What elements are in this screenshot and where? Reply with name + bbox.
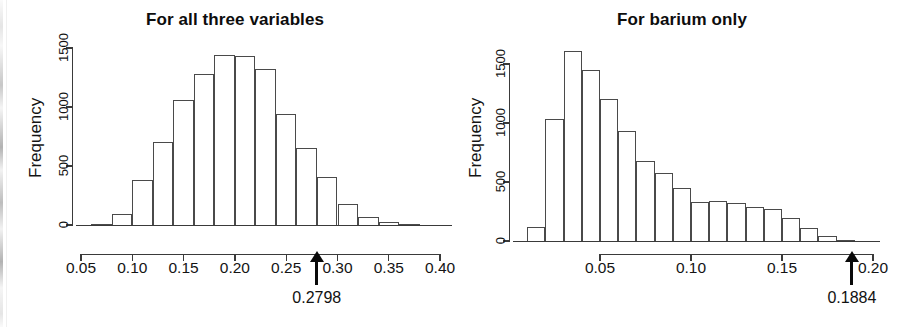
histogram-bar xyxy=(358,217,379,225)
histogram-bar xyxy=(600,99,618,241)
histogram-bar xyxy=(276,114,297,225)
histogram-bar xyxy=(618,131,636,241)
histogram-bar xyxy=(691,202,709,241)
y-tick-label-500: 500 xyxy=(493,160,508,204)
x-tick-label-0.15: 0.15 xyxy=(763,259,801,277)
x-axis-line-right xyxy=(600,254,873,255)
histogram-bar xyxy=(317,177,338,225)
y-tick-label-1000: 1000 xyxy=(56,85,71,129)
x-tick-label-0.25: 0.25 xyxy=(267,259,305,277)
figure-canvas: For all three variables Frequency 050010… xyxy=(0,0,898,327)
x-tick-label-0.30: 0.30 xyxy=(319,259,357,277)
histogram-bar xyxy=(636,161,654,241)
histogram-bar xyxy=(655,173,673,241)
y-axis-label-right: Frequency xyxy=(466,98,486,178)
histogram-bar xyxy=(527,227,545,241)
x-tick-label-0.10: 0.10 xyxy=(672,259,710,277)
histogram-bar xyxy=(800,228,818,241)
scan-artifact-line xyxy=(6,0,7,327)
y-tick-label-1500: 1500 xyxy=(56,26,71,70)
y-axis-line-right xyxy=(509,64,510,241)
x-tick-label-0.40: 0.40 xyxy=(421,259,459,277)
histogram-bar xyxy=(582,70,600,241)
x-tick-label-0.35: 0.35 xyxy=(370,259,408,277)
histogram-bar xyxy=(782,218,800,241)
x-tick-label-0.10: 0.10 xyxy=(113,259,151,277)
x-tick-label-0.05: 0.05 xyxy=(581,259,619,277)
histogram-bar xyxy=(564,51,582,241)
histogram-bar xyxy=(709,201,727,241)
y-tick-label-0: 0 xyxy=(493,219,508,263)
annotation-value-left: 0.2798 xyxy=(284,289,350,307)
y-tick-label-0: 0 xyxy=(56,203,71,247)
histogram-bar xyxy=(153,142,174,225)
y-tick-label-1000: 1000 xyxy=(493,101,508,145)
histogram-bar xyxy=(545,119,563,241)
x-tick-label-0.20: 0.20 xyxy=(216,259,254,277)
panel-title-left: For all three variables xyxy=(146,10,324,30)
y-axis-label-left: Frequency xyxy=(26,98,46,178)
histogram-baseline xyxy=(76,225,452,226)
x-tick-label-0.15: 0.15 xyxy=(165,259,203,277)
panel-title-right: For barium only xyxy=(617,10,747,30)
histogram-baseline xyxy=(513,241,880,242)
histogram-bar xyxy=(132,180,153,225)
histogram-bar xyxy=(255,69,276,225)
histogram-bar xyxy=(746,207,764,241)
histogram-bar xyxy=(235,56,256,225)
histogram-bar xyxy=(194,74,215,225)
histogram-bar xyxy=(112,214,133,225)
scan-artifact-edge xyxy=(0,0,3,327)
histogram-bar xyxy=(214,55,235,225)
histogram-bar xyxy=(764,209,782,241)
annotation-value-right: 0.1884 xyxy=(819,289,885,307)
histogram-bar xyxy=(727,203,745,241)
histogram-bar xyxy=(173,100,194,225)
histogram-bar xyxy=(673,188,691,241)
x-tick-label-0.20: 0.20 xyxy=(854,259,892,277)
y-tick-label-500: 500 xyxy=(56,144,71,188)
x-tick-label-0.05: 0.05 xyxy=(62,259,100,277)
y-tick-label-1500: 1500 xyxy=(493,42,508,86)
annotation-arrow-shaft xyxy=(850,261,853,285)
x-axis-line-left xyxy=(81,254,440,255)
histogram-bar xyxy=(338,204,359,225)
y-axis-line-left xyxy=(72,48,73,225)
annotation-arrow-shaft xyxy=(315,261,318,285)
histogram-bar xyxy=(296,148,317,225)
